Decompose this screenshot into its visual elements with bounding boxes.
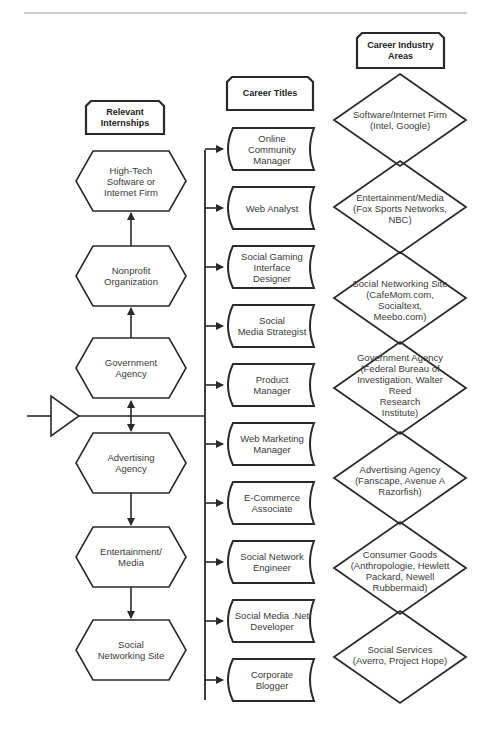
industry-label: Entertainment/Media (Fox Sports Networks… [350, 188, 450, 228]
internship-label: Advertising Agency [86, 433, 176, 493]
industry-label: Software/Internet Firm (Intel, Google) [350, 102, 450, 138]
career-title-label: Online Community Manager [232, 128, 312, 170]
internship-label: Social Networking Site [86, 620, 176, 680]
career-title-label: Social Media .Net Developer [232, 600, 312, 642]
career-title-label: Corporate Blogger [232, 659, 312, 701]
industry-label: Government Agency (Federal Bureau of Inv… [345, 355, 455, 415]
career-title-label: Social Media Strategist [232, 305, 312, 347]
titles-header: Career Titles [227, 77, 313, 110]
internship-label: Entertainment/ Media [86, 527, 176, 587]
internship-label: Nonprofit Organization [86, 246, 176, 306]
internship-label: Government Agency [86, 338, 176, 398]
career-title-label: Web Analyst [232, 187, 312, 229]
internship-label: High-Tech Software or Internet Firm [86, 151, 176, 211]
industry-label: Advertising Agency (Fanscape, Avenue A R… [350, 460, 450, 500]
internships-header: Relevant Internships [86, 101, 164, 134]
industries-header: Career Industry Areas [357, 33, 444, 68]
industry-label: Social Services (Averro, Project Hope) [350, 640, 450, 670]
career-title-label: E-Commerce Associate [232, 482, 312, 524]
career-title-label: Product Manager [232, 364, 312, 406]
career-title-label: Social Network Engineer [232, 541, 312, 583]
entry-triangle [51, 396, 79, 436]
industry-label: Consumer Goods (Anthropologie, Hewlett P… [345, 546, 455, 596]
industry-label: Social Networking Site (CafeMom.com, Soc… [345, 280, 455, 320]
career-title-label: Web Marketing Manager [232, 423, 312, 465]
career-title-label: Social Gaming Interface Designer [232, 246, 312, 288]
